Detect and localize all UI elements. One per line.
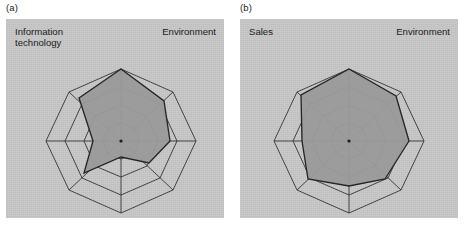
panel-a: (a) Information technology Environment [2,0,226,231]
center-hub-b [347,139,350,142]
center-hub-a [119,139,122,142]
panel-b-tag: (b) [240,2,252,14]
panel-b-axis-label-right: Environment [396,26,450,37]
figure-two-radar-charts: (a) Information technology Environment [0,0,469,231]
panel-b-plot-area: Sales Environment [240,19,458,218]
radar-chart-a [6,19,224,218]
panel-a-plot-area: Information technology Environment [6,19,224,218]
panel-b-axis-label-left: Sales [249,26,273,37]
panel-a-axis-label-left: Information technology [15,26,63,49]
panel-b: (b) Sales Environment [236,0,460,231]
radar-chart-b [240,19,458,218]
panel-a-axis-label-right: Environment [162,26,216,37]
panel-a-tag: (a) [6,2,18,14]
